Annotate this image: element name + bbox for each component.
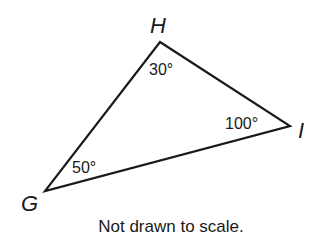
angle-label-i: 100° [225, 116, 258, 132]
vertex-label-i: I [298, 120, 304, 142]
vertex-label-h: H [150, 15, 166, 37]
vertex-label-g: G [21, 193, 38, 215]
angle-label-g: 50° [72, 160, 96, 176]
caption: Not drawn to scale. [0, 217, 320, 237]
angle-label-h: 30° [149, 62, 173, 78]
